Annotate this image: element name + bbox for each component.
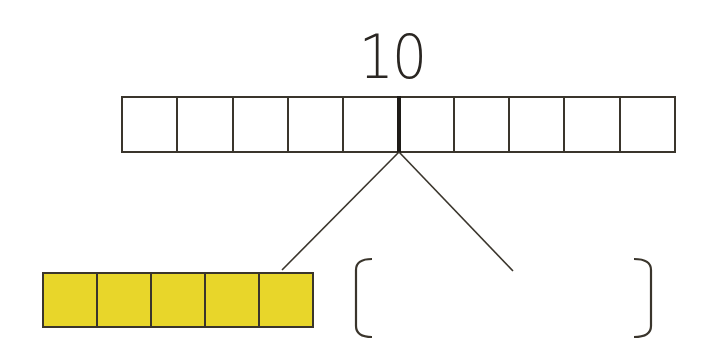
known-part-cell	[206, 274, 260, 326]
known-part-cell	[260, 274, 312, 326]
known-part-cell	[98, 274, 152, 326]
known-part-bar	[42, 272, 314, 328]
known-part-cell	[152, 274, 206, 326]
bond-line-left	[282, 152, 399, 270]
known-part-cell	[44, 274, 98, 326]
left-bracket-icon	[356, 259, 372, 337]
bond-line-right	[399, 152, 513, 271]
right-bracket-icon	[634, 259, 651, 337]
unknown-part-answer-box[interactable]	[374, 262, 632, 334]
